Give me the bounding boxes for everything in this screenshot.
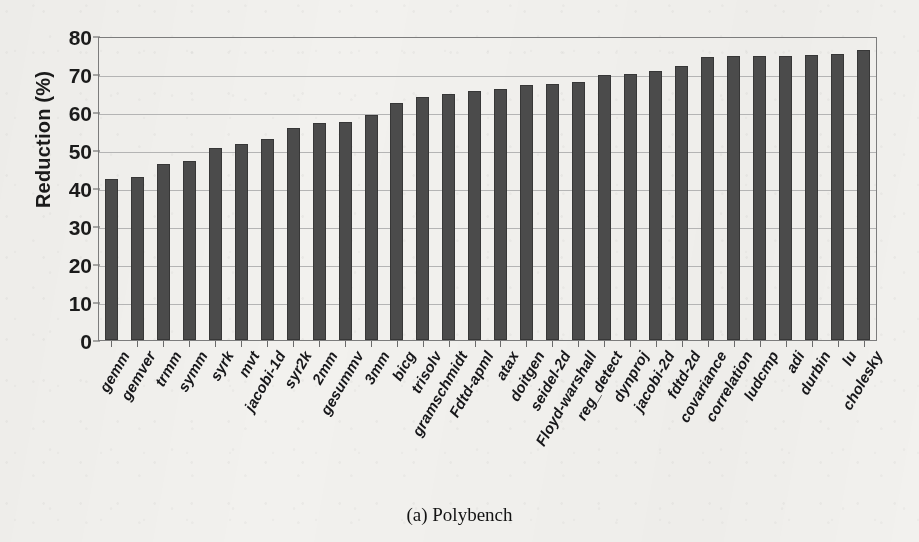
x-axis-tick-mark [526, 341, 527, 347]
x-axis-tick-mark [215, 341, 216, 347]
bar-slot [306, 38, 332, 340]
y-axis-tick-label: 40 [69, 179, 92, 200]
bar-slot [462, 38, 488, 340]
bar-slot [99, 38, 125, 340]
bar [313, 123, 326, 340]
bar [261, 139, 274, 340]
x-axis-tick-mark [656, 341, 657, 347]
bar [624, 74, 637, 340]
x-axis-tick-mark [500, 341, 501, 347]
bar [390, 103, 403, 340]
x-axis-tick-mark [708, 341, 709, 347]
x-axis-tick-mark [734, 341, 735, 347]
bar-slot [151, 38, 177, 340]
x-axis-tick-mark [293, 341, 294, 347]
bar [572, 82, 585, 340]
x-axis-tick-labels: gemmgemvertrmmsymmsyrkmvtjacobi-1dsyr2k2… [98, 348, 877, 488]
bar [857, 50, 870, 340]
bar [157, 164, 170, 340]
x-axis-tick-mark [345, 341, 346, 347]
bar-slot [332, 38, 358, 340]
bar [546, 84, 559, 340]
bar-slot [488, 38, 514, 340]
figure-polybench-reduction: Reduction (%) 01020304050607080 gemmgemv… [0, 0, 919, 542]
bar-slot [617, 38, 643, 340]
bar-slot [384, 38, 410, 340]
bar [183, 161, 196, 340]
bar-slot [229, 38, 255, 340]
bar [701, 57, 714, 340]
bar-slot [824, 38, 850, 340]
x-axis-tick-mark [319, 341, 320, 347]
bar-slot [254, 38, 280, 340]
bar-slot [565, 38, 591, 340]
bar [805, 55, 818, 340]
x-axis-tick-mark [812, 341, 813, 347]
bar-slot [773, 38, 799, 340]
y-axis-tick-label: 50 [69, 141, 92, 162]
x-axis-tick-mark [864, 341, 865, 347]
bar [365, 115, 378, 340]
x-axis-tick-mark [630, 341, 631, 347]
y-axis-tick-label: 0 [80, 331, 92, 352]
y-axis-tick-label: 80 [69, 27, 92, 48]
bar [727, 56, 740, 340]
bar [675, 66, 688, 340]
bar-slot [643, 38, 669, 340]
x-axis-tick-mark [423, 341, 424, 347]
y-axis-tick-label: 10 [69, 293, 92, 314]
bar-slot [591, 38, 617, 340]
bar [105, 179, 118, 340]
bar-slot [669, 38, 695, 340]
bar [753, 56, 766, 340]
bar-slot [358, 38, 384, 340]
bar [131, 177, 144, 340]
bar-slot [539, 38, 565, 340]
x-axis-tick-mark [760, 341, 761, 347]
bar [468, 91, 481, 340]
x-axis-tick-mark [397, 341, 398, 347]
y-axis-tick-label: 30 [69, 217, 92, 238]
bar [649, 71, 662, 340]
y-axis-tick-label: 60 [69, 103, 92, 124]
bar [209, 148, 222, 340]
bar [520, 85, 533, 340]
bar [416, 97, 429, 340]
y-axis-tick-labels: 01020304050607080 [44, 27, 92, 351]
x-axis-tick-mark [267, 341, 268, 347]
plot-area [98, 37, 877, 341]
x-axis-tick-mark [189, 341, 190, 347]
x-axis-tick-label: lu [838, 348, 859, 368]
x-axis-tick-mark [786, 341, 787, 347]
bar-slot [798, 38, 824, 340]
x-axis-tick-mark [838, 341, 839, 347]
x-axis-tick-label: syrk [206, 348, 236, 384]
bar-slot [747, 38, 773, 340]
x-axis-tick-mark [578, 341, 579, 347]
x-axis-tick-mark [371, 341, 372, 347]
bar [831, 54, 844, 340]
x-axis-tick-mark [604, 341, 605, 347]
x-axis-tick-mark [475, 341, 476, 347]
bar-slot [514, 38, 540, 340]
bar [494, 89, 507, 340]
x-axis-tick-mark [241, 341, 242, 347]
bar-slot [721, 38, 747, 340]
x-axis-ticks [98, 341, 877, 348]
x-axis-tick-mark [111, 341, 112, 347]
x-axis-tick-mark [682, 341, 683, 347]
figure-caption: (a) Polybench [0, 504, 919, 526]
bar-series [99, 38, 876, 340]
bar-slot [695, 38, 721, 340]
bar-slot [436, 38, 462, 340]
y-axis-tick-label: 70 [69, 65, 92, 86]
bar-slot [125, 38, 151, 340]
bar-slot [280, 38, 306, 340]
bar [339, 122, 352, 341]
y-axis-tick-label: 20 [69, 255, 92, 276]
bar [598, 75, 611, 340]
bar-slot [177, 38, 203, 340]
x-axis-tick-mark [552, 341, 553, 347]
x-axis-tick-mark [137, 341, 138, 347]
bar [235, 144, 248, 340]
